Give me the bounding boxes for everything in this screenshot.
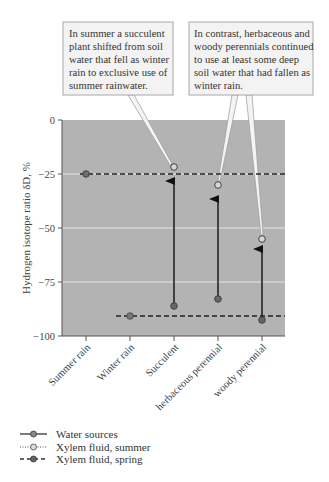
x-ticks bbox=[86, 336, 262, 341]
y-tick-minus-75: −75 bbox=[39, 277, 55, 288]
y-tick-minus-100: −100 bbox=[33, 331, 55, 342]
callout-1-line-1: In summer a succulent bbox=[69, 28, 165, 39]
legend-item-xylem-spring: Xylem fluid, spring bbox=[20, 453, 143, 465]
legend: Water sources Xylem fluid, summer Xylem … bbox=[20, 428, 151, 465]
y-ticks bbox=[58, 120, 62, 336]
legend-label-water-sources: Water sources bbox=[56, 428, 118, 440]
point-winter-rain bbox=[127, 313, 134, 320]
callout-2-line-5: winter rain. bbox=[194, 80, 243, 91]
callout-2-line-1: In contrast, herbaceous and bbox=[194, 28, 311, 39]
callout-1-line-3: water that fell as winter bbox=[69, 54, 169, 65]
legend-item-water-sources: Water sources bbox=[20, 428, 118, 440]
callout-1-line-2: plant shifted from soil bbox=[69, 41, 163, 52]
callout-box-1: In summer a succulent plant shifted from… bbox=[63, 22, 173, 95]
x-label-succulent: Succulent bbox=[143, 342, 180, 379]
point-summer-rain bbox=[83, 171, 90, 178]
point-woody-spring bbox=[259, 317, 266, 324]
y-tick-0: 0 bbox=[50, 115, 55, 126]
point-herbaceous-summer bbox=[215, 182, 222, 189]
legend-label-xylem-spring: Xylem fluid, spring bbox=[56, 453, 143, 465]
chart-figure: In summer a succulent plant shifted from… bbox=[0, 0, 329, 482]
point-herbaceous-spring bbox=[215, 296, 222, 303]
callout-box-2: In contrast, herbaceous and woody perenn… bbox=[189, 22, 314, 95]
x-label-summer-rain: Summer rain bbox=[46, 341, 93, 388]
callout-2-line-2: woody perennials continued bbox=[194, 41, 314, 52]
callout-2-line-3: to use at least some deep bbox=[194, 54, 299, 65]
y-axis-title: Hydrogen isotope ratio δD, % bbox=[20, 162, 32, 294]
callout-1-line-4: rain to exclusive use of bbox=[69, 67, 168, 78]
callout-2-line-4: soil water that had fallen as bbox=[194, 67, 310, 78]
x-label-winter-rain: Winter rain bbox=[95, 341, 137, 383]
y-tick-minus-50: −50 bbox=[39, 223, 55, 234]
point-woody-summer bbox=[259, 236, 266, 243]
legend-item-xylem-summer: Xylem fluid, summer bbox=[20, 441, 151, 453]
point-succulent-summer bbox=[171, 164, 178, 171]
callout-1-line-5: summer rainwater. bbox=[69, 80, 148, 91]
legend-label-xylem-summer: Xylem fluid, summer bbox=[56, 441, 151, 453]
point-succulent-spring bbox=[171, 303, 178, 310]
y-tick-minus-25: −25 bbox=[39, 169, 55, 180]
